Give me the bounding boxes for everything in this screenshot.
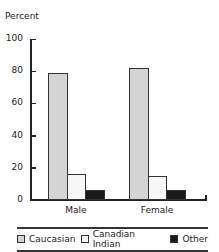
legend-bottom-rule [17,250,208,252]
y-tick-mark [31,135,36,137]
y-tick-label: 80 [3,65,23,75]
legend-swatch-caucasian [17,235,25,243]
category-label-female: Female [127,205,187,215]
bar-male-caucasian [48,73,68,200]
bar-male-canadian-indian [67,174,87,200]
y-tick-mark [31,71,36,73]
y-axis-label: Percent [5,11,39,21]
legend-swatch-canadian-indian [81,235,88,243]
legend-item-canadian-indian: Canadian Indian [81,229,156,249]
y-tick-label: 60 [3,97,23,107]
y-tick-label: 0 [3,194,23,204]
y-tick-label: 20 [3,162,23,172]
y-tick-mark [31,167,36,169]
legend-label: Other [182,234,208,244]
y-tick-label: 100 [3,33,23,43]
legend-label: Canadian Indian [93,229,157,249]
legend-item-other: Other [170,234,208,244]
bar-female-caucasian [129,68,149,200]
y-tick-label: 40 [3,130,23,140]
y-tick-mark [31,103,36,105]
legend-item-caucasian: Caucasian [17,234,75,244]
y-axis-line [30,39,32,201]
bar-female-canadian-indian [148,176,168,200]
legend-label: Caucasian [29,234,75,244]
x-axis-end-tick [205,195,207,200]
bar-female-other [166,190,186,200]
category-label-male: Male [46,205,106,215]
bar-male-other [85,190,105,200]
y-tick-mark [31,39,36,41]
legend: Caucasian Canadian Indian Other [17,231,208,247]
legend-swatch-other [170,235,178,243]
